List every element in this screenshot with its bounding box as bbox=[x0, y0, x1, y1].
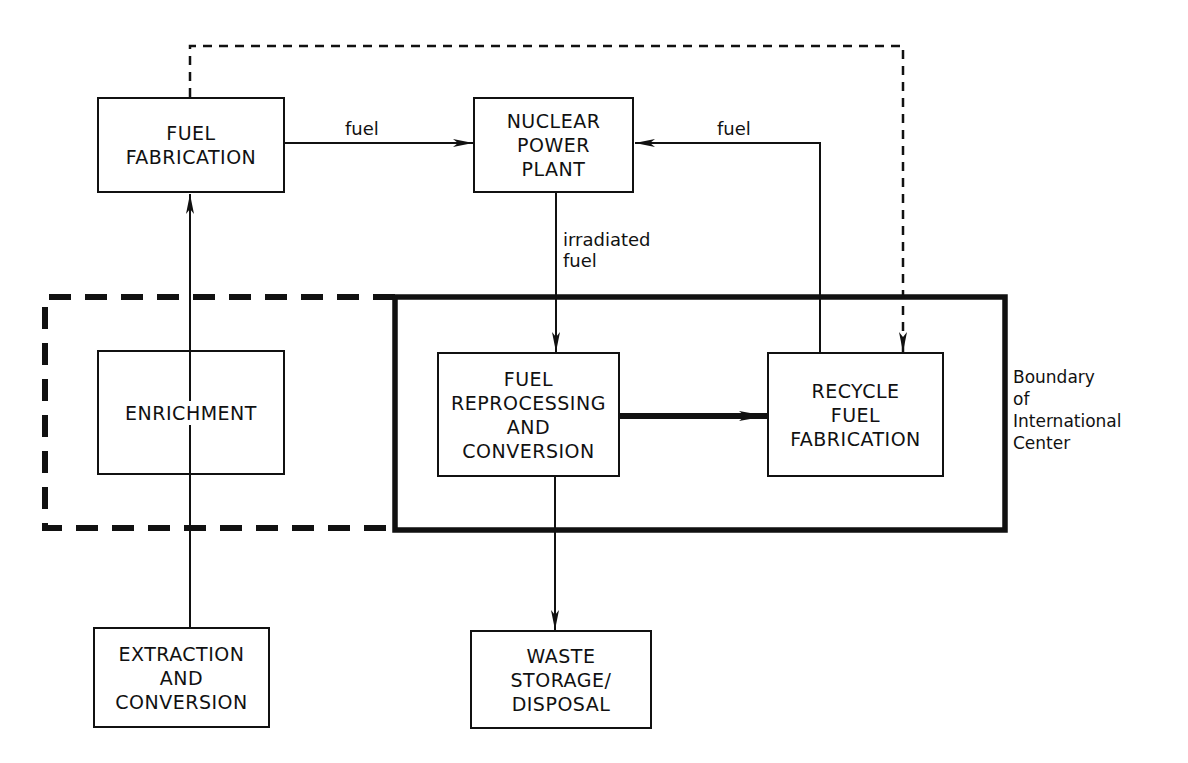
recycle-fuel-fabrication-box: RECYCLE FUEL FABRICATION bbox=[767, 352, 944, 477]
extraction-box: EXTRACTION AND CONVERSION bbox=[93, 627, 270, 728]
fuel-reprocessing-box: FUEL REPROCESSING AND CONVERSION bbox=[437, 352, 620, 477]
fuel-reprocessing-label: FUEL REPROCESSING AND CONVERSION bbox=[451, 367, 606, 463]
nuclear-power-plant-box: NUCLEAR POWER PLANT bbox=[473, 97, 634, 193]
fuel-fabrication-box: FUEL FABRICATION bbox=[97, 97, 285, 193]
enrichment-box: ENRICHMENT bbox=[97, 350, 285, 475]
waste-box: WASTE STORAGE/ DISPOSAL bbox=[470, 630, 652, 729]
fuel-edge-label: fuel bbox=[345, 118, 379, 139]
recycle-fuel-fabrication-label: RECYCLE FUEL FABRICATION bbox=[790, 379, 921, 451]
irradiated-fuel-edge-label: irradiated fuel bbox=[563, 229, 651, 271]
boundary-label: Boundary of International Center bbox=[1013, 366, 1122, 454]
fuel-cycle-diagram: FUEL FABRICATION NUCLEAR POWER PLANT ENR… bbox=[0, 0, 1188, 763]
fuel-fabrication-label: FUEL FABRICATION bbox=[126, 121, 257, 169]
enrichment-label: ENRICHMENT bbox=[123, 401, 259, 425]
recycle-fuel-edge-label: fuel bbox=[717, 118, 751, 139]
recycle-fuel-arrow bbox=[635, 143, 820, 352]
waste-label: WASTE STORAGE/ DISPOSAL bbox=[511, 644, 612, 716]
extraction-label: EXTRACTION AND CONVERSION bbox=[115, 642, 247, 714]
nuclear-power-plant-label: NUCLEAR POWER PLANT bbox=[507, 109, 601, 181]
